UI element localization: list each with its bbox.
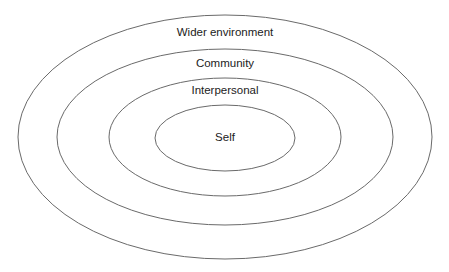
label-self: Self [215,131,236,143]
label-interpersonal: Interpersonal [191,84,258,96]
ecological-model-diagram: Wider environment Community Interpersona… [0,0,449,272]
label-wider-environment: Wider environment [177,26,274,38]
label-community: Community [196,57,254,69]
